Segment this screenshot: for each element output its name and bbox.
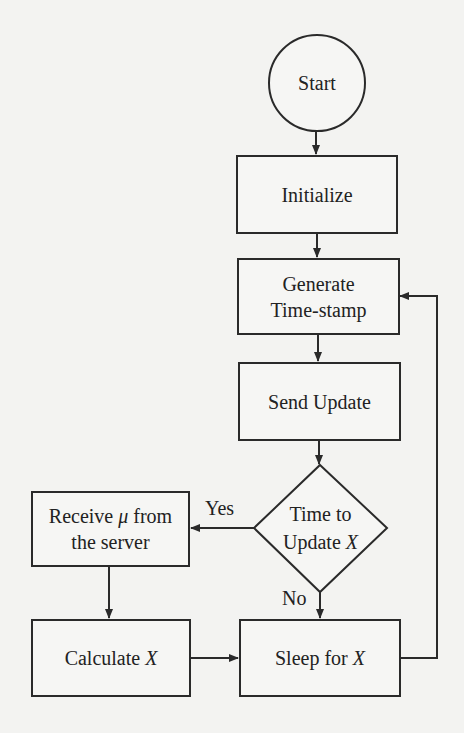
- decision-text: Time to Update X: [254, 500, 387, 556]
- calculate-var: X: [145, 647, 157, 669]
- receive-line1: Receive μ from: [49, 503, 172, 529]
- decision-line2-prefix: Update: [283, 531, 346, 553]
- decision-line1: Time to: [254, 500, 387, 528]
- receive-line2: the server: [71, 529, 149, 555]
- receive-suffix: from: [128, 505, 172, 527]
- generate-label-line2: Time-stamp: [271, 297, 367, 323]
- generate-label-line1: Generate: [282, 271, 354, 297]
- generate-timestamp-node: Generate Time-stamp: [237, 258, 400, 335]
- sleep-node: Sleep for X: [239, 619, 401, 697]
- decision-var: X: [346, 531, 358, 553]
- initialize-label: Initialize: [281, 182, 352, 208]
- sleep-var: X: [353, 647, 365, 669]
- decision-line2: Update X: [254, 528, 387, 556]
- sleep-label: Sleep for X: [275, 645, 365, 671]
- receive-mu-node: Receive μ from the server: [31, 491, 190, 567]
- start-label: Start: [298, 70, 336, 96]
- calculate-prefix: Calculate: [65, 647, 146, 669]
- start-node: Start: [268, 34, 366, 132]
- sleep-prefix: Sleep for: [275, 647, 353, 669]
- receive-var: μ: [118, 505, 128, 527]
- initialize-node: Initialize: [236, 155, 398, 234]
- calculate-node: Calculate X: [31, 619, 191, 697]
- send-update-label: Send Update: [268, 389, 371, 415]
- receive-prefix: Receive: [49, 505, 118, 527]
- yes-label: Yes: [205, 497, 234, 520]
- no-label: No: [282, 587, 306, 610]
- send-update-node: Send Update: [238, 362, 401, 441]
- calculate-label: Calculate X: [65, 645, 158, 671]
